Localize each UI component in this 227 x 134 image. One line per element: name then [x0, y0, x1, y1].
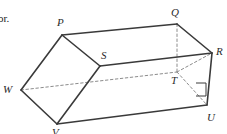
vertex-label-p: P — [57, 17, 64, 28]
solid-edge-group — [21, 24, 212, 124]
vertex-label-w: W — [3, 84, 12, 95]
vertex-label-q: Q — [171, 7, 179, 18]
vertex-label-u: U — [207, 112, 215, 123]
edge-P-Q — [62, 24, 177, 35]
vertex-label-s: S — [101, 50, 107, 61]
edge-W-T — [21, 72, 177, 90]
edge-P-W — [21, 35, 62, 90]
edge-S-R — [100, 53, 212, 66]
vertex-label-t: T — [171, 75, 177, 86]
vertex-label-v: V — [52, 127, 59, 134]
edge-V-S — [57, 66, 100, 124]
figure-page: or. PQRSTUVW — [0, 0, 227, 134]
vertex-label-r: R — [216, 46, 223, 57]
edge-V-U — [57, 105, 207, 124]
edge-W-V — [21, 90, 57, 124]
prism-figure — [0, 0, 227, 134]
edge-T-U — [177, 72, 207, 105]
edge-R-U — [207, 53, 212, 105]
edge-Q-R — [177, 24, 212, 53]
edge-P-S — [62, 35, 100, 66]
